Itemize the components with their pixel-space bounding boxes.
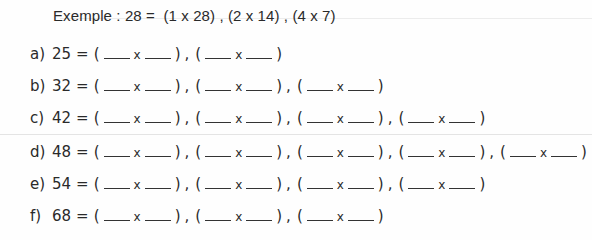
open-paren: ( (399, 109, 405, 127)
close-paren: ) (175, 77, 181, 95)
exercise-number: 54 (52, 175, 71, 193)
factor-blank[interactable] (307, 76, 333, 91)
factor-blank[interactable] (408, 108, 434, 123)
factor-pair: (x) (94, 108, 181, 127)
factor-blank[interactable] (408, 174, 434, 189)
factor-blank[interactable] (307, 142, 333, 157)
times-sign: x (235, 178, 242, 192)
open-paren: ( (297, 143, 303, 161)
open-paren: ( (94, 143, 100, 161)
close-paren: ) (175, 45, 181, 63)
factor-pair: (x) (195, 174, 282, 193)
times-sign: x (438, 146, 445, 160)
factor-blank[interactable] (348, 206, 374, 221)
factor-pair: (x) (94, 174, 181, 193)
example-equals: = (146, 7, 155, 24)
example-number: 28 (125, 7, 142, 24)
exercise-letter: f) (30, 207, 52, 225)
close-paren: ) (175, 175, 181, 193)
factor-blank[interactable] (307, 174, 333, 189)
factor-blank[interactable] (104, 44, 130, 59)
equals-sign: = (76, 45, 89, 63)
factor-blank[interactable] (205, 44, 231, 59)
factor-blank[interactable] (145, 174, 171, 189)
factor-blank[interactable] (205, 174, 231, 189)
open-paren: ( (399, 175, 405, 193)
factor-blank[interactable] (348, 142, 374, 157)
times-sign: x (438, 112, 445, 126)
exercise-number: 25 (52, 45, 71, 63)
open-paren: ( (195, 175, 201, 193)
factor-blank[interactable] (145, 76, 171, 91)
factor-pair: (x) (195, 108, 282, 127)
factor-blank[interactable] (205, 108, 231, 123)
factor-blank[interactable] (104, 76, 130, 91)
exercise-number: 42 (52, 109, 71, 127)
close-paren: ) (175, 109, 181, 127)
equals-sign: = (76, 143, 89, 161)
factor-blank[interactable] (246, 206, 272, 221)
factor-blank[interactable] (145, 108, 171, 123)
close-paren: ) (276, 207, 282, 225)
factor-blank[interactable] (307, 108, 333, 123)
close-paren: ) (378, 77, 384, 95)
factor-blank[interactable] (510, 142, 536, 157)
times-sign: x (134, 80, 141, 94)
factor-blank[interactable] (145, 142, 171, 157)
factor-blank[interactable] (551, 142, 577, 157)
factor-blank[interactable] (348, 174, 374, 189)
times-sign: x (235, 146, 242, 160)
exercise-number: 48 (52, 143, 71, 161)
factor-blank[interactable] (408, 142, 434, 157)
factor-blank[interactable] (246, 76, 272, 91)
factor-blank[interactable] (104, 108, 130, 123)
comma: , (185, 45, 190, 63)
factor-blank[interactable] (246, 44, 272, 59)
times-sign: x (235, 210, 242, 224)
factor-blank[interactable] (145, 44, 171, 59)
comma: , (489, 143, 494, 161)
factor-blank[interactable] (246, 142, 272, 157)
factor-blank[interactable] (205, 76, 231, 91)
factor-blank[interactable] (449, 108, 475, 123)
factor-blank[interactable] (246, 108, 272, 123)
times-sign: x (337, 210, 344, 224)
comma: , (286, 143, 291, 161)
open-paren: ( (297, 175, 303, 193)
exercise-letter: a) (30, 45, 52, 63)
exercise-letter: b) (30, 77, 52, 95)
times-sign: x (134, 48, 141, 62)
times-sign: x (134, 178, 141, 192)
equals-sign: = (76, 175, 89, 193)
factor-pair: (x) (297, 76, 384, 95)
factor-blank[interactable] (104, 142, 130, 157)
factor-blank[interactable] (449, 142, 475, 157)
factor-blank[interactable] (449, 174, 475, 189)
factor-blank[interactable] (104, 206, 130, 221)
exercise-letter: d) (30, 143, 52, 161)
example-line: Exemple : 28 = (1 x 28) , (2 x 14) , (4 … (53, 7, 336, 24)
comma: , (286, 175, 291, 193)
close-paren: ) (175, 207, 181, 225)
times-sign: x (337, 112, 344, 126)
factor-blank[interactable] (307, 206, 333, 221)
close-paren: ) (276, 77, 282, 95)
comma: , (388, 109, 393, 127)
factor-blank[interactable] (348, 76, 374, 91)
factor-pair: (x) (297, 174, 384, 193)
close-paren: ) (479, 175, 485, 193)
factor-blank[interactable] (205, 142, 231, 157)
factor-blank[interactable] (205, 206, 231, 221)
comma: , (388, 143, 393, 161)
factor-blank[interactable] (246, 174, 272, 189)
exercise-row: f)68=(x),(x),(x) (30, 206, 384, 225)
factor-blank[interactable] (145, 206, 171, 221)
close-paren: ) (378, 175, 384, 193)
exercise-number: 32 (52, 77, 71, 95)
factor-blank[interactable] (104, 174, 130, 189)
example-pairs: (1 x 28) , (2 x 14) , (4 x 7) (163, 7, 335, 24)
factor-pair: (x) (195, 206, 282, 225)
close-paren: ) (276, 109, 282, 127)
factor-pair: (x) (94, 76, 181, 95)
factor-blank[interactable] (348, 108, 374, 123)
